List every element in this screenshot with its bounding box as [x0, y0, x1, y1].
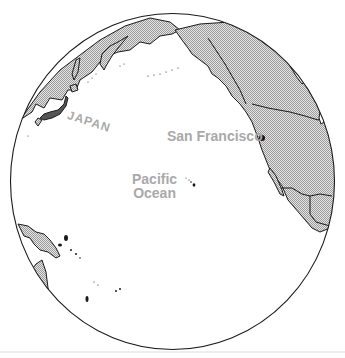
ocean-label-line2: Ocean [132, 186, 177, 200]
ocean-label: Pacific Ocean [132, 172, 177, 200]
ocean-label-line1: Pacific [132, 172, 177, 186]
landmass-hokkaido [70, 84, 78, 92]
landmass-new-guinea [18, 224, 60, 258]
pacific-islands [58, 235, 121, 302]
city-label-san-francisco: San Francisco [167, 128, 263, 144]
landmass-north-america [175, 22, 340, 232]
hawaii-islands [186, 178, 196, 187]
bottom-divider [0, 351, 345, 353]
landmass-asia [20, 18, 180, 120]
landmass-kyushu [35, 118, 42, 126]
